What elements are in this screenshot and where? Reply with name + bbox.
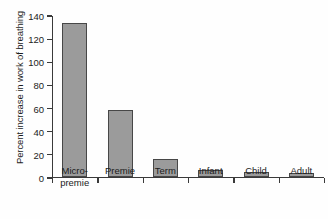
x-tick (324, 178, 325, 183)
category-label: Adult (279, 165, 324, 177)
x-tick (97, 178, 98, 183)
bar-chart: Percent increase in work of breathing 02… (0, 0, 328, 219)
category-label: Premie (97, 165, 142, 177)
y-tick-label: 100 (28, 57, 44, 68)
x-tick (233, 178, 234, 183)
y-tick-80: 80 (47, 85, 52, 86)
category-label: Term (143, 165, 188, 177)
y-tick-60: 60 (47, 108, 52, 109)
plot-area: 020406080100120140 (52, 16, 324, 178)
category-label: Micro- premie (52, 165, 97, 188)
y-tick-label: 80 (33, 80, 44, 91)
y-tick-label: 60 (33, 103, 44, 114)
y-tick-40: 40 (47, 131, 52, 132)
x-tick (279, 178, 280, 183)
y-tick-120: 120 (47, 39, 52, 40)
y-axis-title: Percent increase in work of breathing (14, 3, 25, 173)
y-tick-label: 40 (33, 126, 44, 137)
category-label: Child (233, 165, 278, 177)
y-tick-label: 0 (39, 172, 44, 183)
y-axis-line (52, 16, 53, 178)
y-tick-20: 20 (47, 154, 52, 155)
bar (62, 23, 87, 177)
y-tick-label: 120 (28, 34, 44, 45)
x-tick (143, 178, 144, 183)
category-label: Infant (188, 165, 233, 177)
y-tick-140: 140 (47, 15, 52, 16)
y-tick-label: 20 (33, 149, 44, 160)
y-tick-label: 140 (28, 11, 44, 22)
y-tick-100: 100 (47, 62, 52, 63)
x-tick (188, 178, 189, 183)
